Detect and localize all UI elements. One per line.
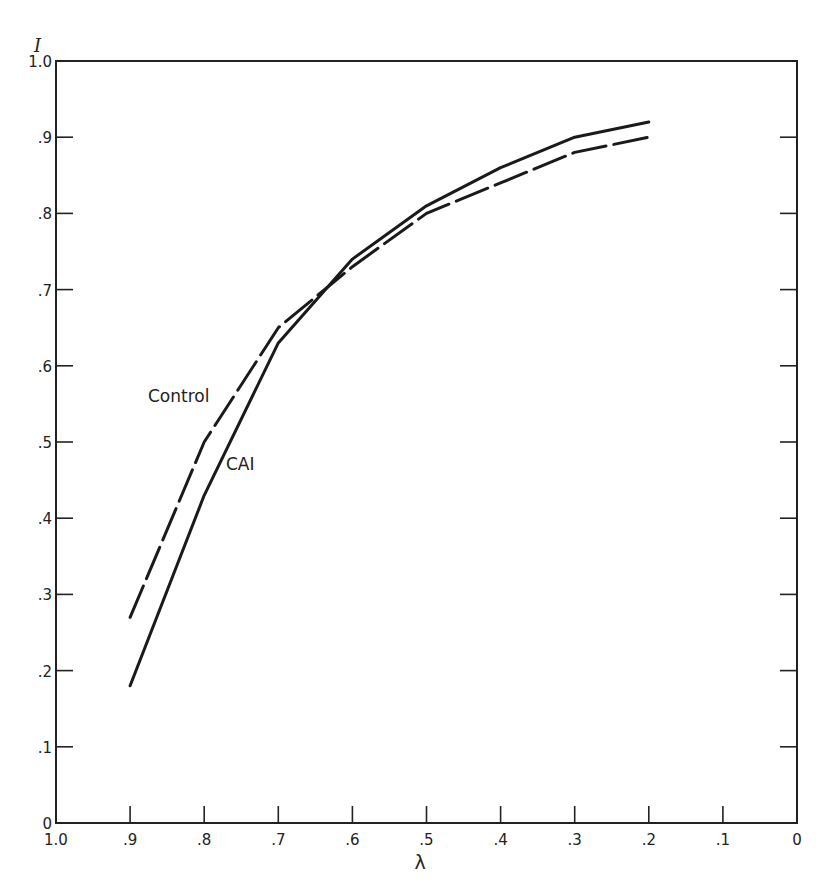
plot-border xyxy=(56,61,797,823)
y-tick-label: .8 xyxy=(38,205,52,223)
y-tick-label: .5 xyxy=(38,434,52,452)
x-tick-label: 1.0 xyxy=(44,831,68,849)
x-tick-label: .1 xyxy=(716,831,730,849)
series-line-control xyxy=(130,137,649,617)
y-tick-label: .7 xyxy=(38,282,52,300)
y-tick-label: .9 xyxy=(38,129,52,147)
line-chart: 0.1.2.3.4.5.6.7.8.91.0 1.0.9.8.7.6.5.4.3… xyxy=(0,0,831,894)
x-tick-label: .5 xyxy=(419,831,433,849)
series-label-cai: CAI xyxy=(226,454,255,474)
x-tick-label: .6 xyxy=(345,831,359,849)
x-tick-label: .7 xyxy=(271,831,285,849)
x-tick-label: .9 xyxy=(123,831,137,849)
y-axis-ticks: 0.1.2.3.4.5.6.7.8.91.0 xyxy=(28,53,797,833)
x-tick-label: .2 xyxy=(642,831,656,849)
plot-frame xyxy=(56,61,797,823)
y-tick-label: .1 xyxy=(38,739,52,757)
x-tick-label: .4 xyxy=(493,831,507,849)
x-tick-label: .3 xyxy=(568,831,582,849)
x-tick-label: .8 xyxy=(197,831,211,849)
series-label-control: Control xyxy=(148,386,209,406)
y-tick-label: .3 xyxy=(38,586,52,604)
y-tick-label: .2 xyxy=(38,663,52,681)
x-axis-title: λ xyxy=(414,851,425,873)
x-axis-ticks: 1.0.9.8.7.6.5.4.3.2.10 xyxy=(44,806,802,849)
x-tick-label: 0 xyxy=(792,831,802,849)
y-axis-title: I xyxy=(33,35,42,56)
y-tick-label: .6 xyxy=(38,358,52,376)
y-tick-label: .4 xyxy=(38,510,52,528)
